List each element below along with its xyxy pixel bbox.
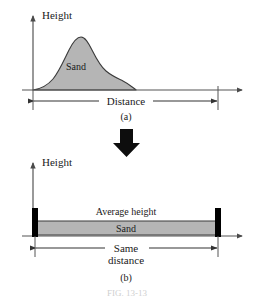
figure-caption: FIG. 13-13	[107, 288, 147, 297]
sand-region-label-b: Sand	[116, 223, 136, 234]
distance-label-a: Distance	[107, 95, 146, 107]
end-bar-left-b	[32, 208, 38, 237]
sand-region-label-a: Sand	[66, 61, 86, 72]
arrow-down-icon	[113, 129, 140, 157]
end-bar-right-b	[215, 208, 221, 237]
same-distance-label-line2: distance	[108, 254, 144, 266]
figure-illustration: Height Sand Distance (a)	[0, 0, 255, 297]
average-height-label-b: Average height	[96, 206, 157, 217]
same-distance-label-line1: Same	[114, 242, 139, 254]
figure-container: Height Sand Distance (a)	[0, 0, 255, 297]
panel-label-b: (b)	[120, 272, 132, 284]
panel-b-group: Height Average height Sand Same distance…	[22, 156, 242, 284]
panel-a-group: Height Sand Distance (a)	[22, 9, 242, 123]
panel-label-a: (a)	[120, 111, 131, 123]
y-axis-label-b: Height	[42, 156, 72, 168]
y-axis-label-a: Height	[42, 9, 72, 21]
transition-arrow-group	[113, 129, 140, 157]
